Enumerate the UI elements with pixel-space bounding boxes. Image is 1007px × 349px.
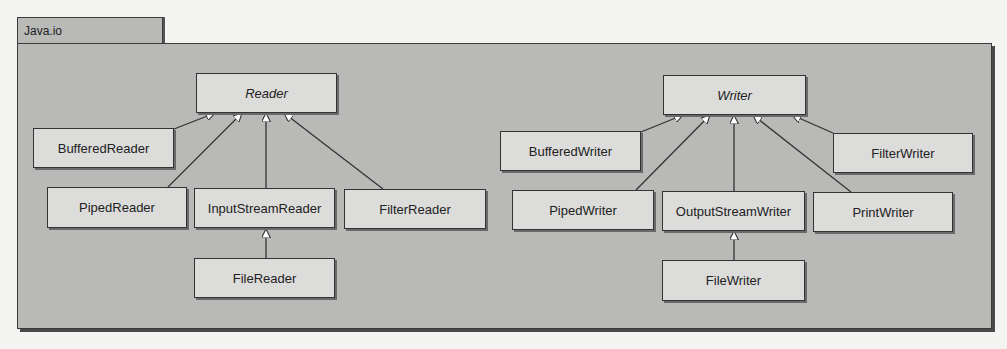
package-tab: Java.io [17, 17, 163, 43]
class-pipedwriter-label: PipedWriter [549, 203, 617, 218]
class-reader[interactable]: Reader [196, 73, 337, 113]
class-filewriter-label: FileWriter [706, 273, 761, 288]
class-filereader[interactable]: FileReader [194, 258, 335, 298]
class-filterreader-label: FilterReader [379, 202, 451, 217]
class-pipedreader-label: PipedReader [79, 200, 155, 215]
class-bufferedwriter[interactable]: BufferedWriter [500, 131, 641, 171]
class-filterwriter-label: FilterWriter [871, 146, 934, 161]
class-inputstreamreader[interactable]: InputStreamReader [194, 188, 335, 228]
package-name: Java.io [24, 24, 62, 38]
class-bufferedwriter-label: BufferedWriter [529, 144, 612, 159]
class-filterwriter[interactable]: FilterWriter [833, 133, 973, 173]
class-writer-label: Writer [717, 88, 752, 103]
package-frame [17, 43, 992, 329]
class-reader-label: Reader [245, 86, 288, 101]
class-bufferedreader[interactable]: BufferedReader [33, 128, 174, 168]
class-filewriter[interactable]: FileWriter [662, 260, 805, 301]
class-pipedreader[interactable]: PipedReader [47, 187, 187, 228]
class-outputstreamwriter-label: OutputStreamWriter [676, 204, 791, 219]
class-inputstreamreader-label: InputStreamReader [208, 201, 321, 216]
class-bufferedreader-label: BufferedReader [58, 141, 150, 156]
class-pipedwriter[interactable]: PipedWriter [512, 190, 654, 230]
class-writer[interactable]: Writer [663, 75, 806, 115]
class-printwriter[interactable]: PrintWriter [813, 192, 953, 232]
class-printwriter-label: PrintWriter [852, 205, 913, 220]
class-filereader-label: FileReader [233, 271, 297, 286]
class-filterreader[interactable]: FilterReader [344, 189, 486, 229]
class-outputstreamwriter[interactable]: OutputStreamWriter [662, 191, 805, 231]
